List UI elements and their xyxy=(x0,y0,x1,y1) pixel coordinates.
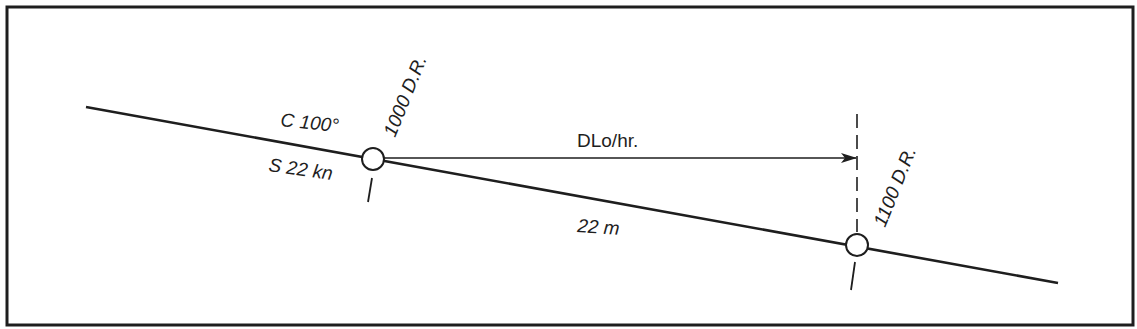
distance-label: 22 m xyxy=(576,215,621,239)
dr-1100-point xyxy=(846,234,868,256)
dr-1000-point xyxy=(362,148,384,170)
dead-reckoning-diagram: C 100° S 22 kn 1000 D.R. 1100 D.R. DLo/h… xyxy=(0,0,1137,329)
diagram-frame xyxy=(7,7,1133,325)
course-label: C 100° xyxy=(280,109,341,136)
course-line xyxy=(86,107,1058,283)
position-1000-label: 1000 D.R. xyxy=(379,52,431,139)
speed-label: S 22 kn xyxy=(267,154,334,184)
dr-1000-tick xyxy=(368,178,372,202)
dlo-per-hour-label: DLo/hr. xyxy=(577,130,638,151)
dr-1100-tick xyxy=(851,262,855,290)
position-1100-label: 1100 D.R. xyxy=(869,144,920,230)
